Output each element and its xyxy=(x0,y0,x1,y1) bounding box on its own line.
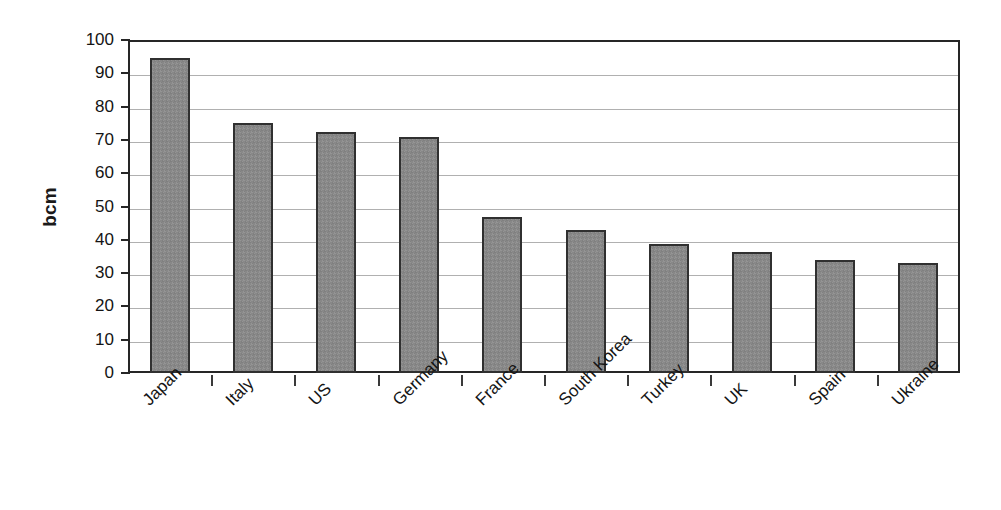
x-tick-mark xyxy=(627,375,629,386)
bar-chart: bcm 1009080706050403020100 JapanItalyUSG… xyxy=(0,0,1001,510)
x-tick-label: US xyxy=(305,379,335,409)
bar xyxy=(316,132,356,373)
bar xyxy=(482,217,522,373)
x-tick-mark xyxy=(544,375,546,386)
y-tick-label: 80 xyxy=(58,98,114,115)
bar xyxy=(649,244,689,373)
bar xyxy=(732,252,772,373)
y-tick-label: 0 xyxy=(58,364,114,381)
y-tick-label: 40 xyxy=(58,231,114,248)
y-tick-label: 10 xyxy=(58,331,114,348)
x-tick-mark xyxy=(211,375,213,386)
y-tick-label: 50 xyxy=(58,198,114,215)
y-tick-label: 100 xyxy=(58,31,114,48)
x-tick-label: UK xyxy=(721,379,751,409)
x-tick-mark xyxy=(294,375,296,386)
x-tick-mark xyxy=(877,375,879,386)
x-tick-mark xyxy=(794,375,796,386)
y-tick-label: 30 xyxy=(58,264,114,281)
x-tick-label: Italy xyxy=(222,374,257,409)
bar xyxy=(898,263,938,373)
bar xyxy=(150,58,190,373)
x-tick-mark xyxy=(710,375,712,386)
x-tick-mark xyxy=(378,375,380,386)
bar xyxy=(233,123,273,373)
x-tick-mark xyxy=(461,375,463,386)
y-tick-label: 20 xyxy=(58,297,114,314)
bar xyxy=(399,137,439,373)
bar xyxy=(815,260,855,373)
y-tick-label: 70 xyxy=(58,131,114,148)
bars-group xyxy=(128,40,960,373)
y-tick-label: 90 xyxy=(58,64,114,81)
y-tick-label: 60 xyxy=(58,164,114,181)
